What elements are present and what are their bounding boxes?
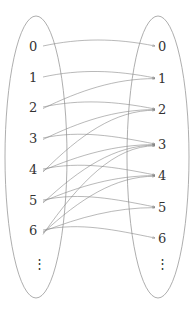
edge-4-to-4 xyxy=(43,165,155,175)
edge-3-to-3 xyxy=(43,134,155,144)
left-ellipsis: ⋮ xyxy=(33,256,46,271)
left-labels: 0123456 xyxy=(29,39,37,238)
right-node-1: 1 xyxy=(158,71,166,86)
right-node-5: 5 xyxy=(158,200,166,215)
edge-5-to-3 xyxy=(43,145,155,203)
right-node-0: 0 xyxy=(158,39,166,54)
edge-5-to-5 xyxy=(43,196,155,207)
left-node-0: 0 xyxy=(29,39,37,54)
left-node-5: 5 xyxy=(29,193,37,208)
mapping-diagram: 0123456 0123456 ⋮ ⋮ xyxy=(0,0,190,316)
left-node-4: 4 xyxy=(29,162,37,177)
left-node-6: 6 xyxy=(29,223,37,238)
right-node-3: 3 xyxy=(158,137,166,152)
edge-0-to-0 xyxy=(43,40,155,46)
right-ellipsis: ⋮ xyxy=(156,256,169,271)
edges-group xyxy=(43,40,155,238)
edge-1-to-1 xyxy=(43,71,155,78)
edge-4-to-2 xyxy=(43,110,155,172)
left-node-2: 2 xyxy=(29,100,37,115)
right-node-2: 2 xyxy=(158,102,166,117)
edge-2-to-2 xyxy=(43,102,155,109)
edge-6-to-4 xyxy=(43,176,155,233)
right-node-6: 6 xyxy=(158,231,166,246)
edge-4-to-3 xyxy=(43,145,155,171)
left-node-1: 1 xyxy=(29,70,37,85)
edge-6-to-3 xyxy=(43,146,155,235)
right-node-4: 4 xyxy=(158,168,166,183)
edge-6-to-6 xyxy=(43,227,155,238)
right-labels: 0123456 xyxy=(158,39,166,246)
left-node-3: 3 xyxy=(29,131,37,146)
